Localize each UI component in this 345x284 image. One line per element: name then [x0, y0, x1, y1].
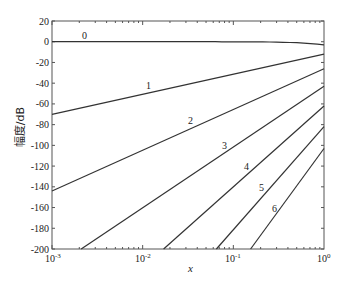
- curve-label-6: 6: [272, 203, 277, 214]
- curve-label-2: 2: [188, 115, 193, 126]
- y-axis-title: 幅度/dB: [13, 107, 27, 147]
- curves: [52, 42, 324, 249]
- x-tick-label-2: 10-1: [225, 252, 241, 264]
- curve-0: [52, 42, 324, 45]
- y-tick-label: 20: [39, 16, 49, 27]
- curve-label-4: 4: [244, 161, 249, 172]
- x-axis-ticks: [52, 21, 320, 249]
- y-tick-label: -80: [36, 119, 49, 130]
- y-tick-label: -160: [31, 202, 49, 213]
- y-tick-label: -140: [31, 181, 49, 192]
- x-axis-title: x: [187, 262, 193, 274]
- curve-label-3: 3: [222, 140, 227, 151]
- curve-label-5: 5: [259, 182, 264, 193]
- y-tick-label: 0: [44, 36, 49, 47]
- plot-frame: [52, 21, 324, 249]
- curve-1: [52, 54, 324, 114]
- amplitude-chart: 200-20-40-60-80-100-120-140-160-180-200 …: [0, 0, 345, 284]
- y-tick-label: -60: [36, 98, 49, 109]
- curve-6: [251, 149, 324, 250]
- x-tick-label-0: 10-3: [45, 252, 61, 264]
- y-tick-label: -180: [31, 223, 49, 234]
- x-tick-label-1: 10-2: [135, 252, 151, 264]
- curve-label-1: 1: [146, 80, 151, 91]
- curve-labels: 0123456: [82, 30, 277, 214]
- x-tick-label-3: 100: [317, 252, 331, 264]
- y-tick-label: -100: [31, 140, 49, 151]
- y-tick-label: -120: [31, 161, 49, 172]
- curve-label-0: 0: [82, 30, 87, 41]
- y-tick-label: -20: [36, 57, 49, 68]
- y-tick-label: -40: [36, 78, 49, 89]
